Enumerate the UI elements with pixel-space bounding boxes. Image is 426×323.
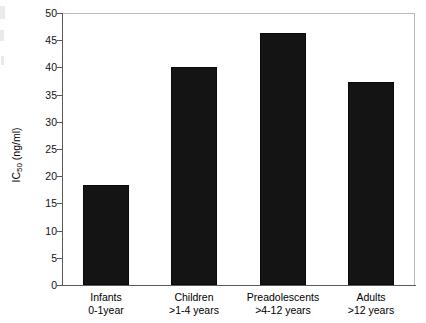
- x-category-label-line1: Infants: [62, 291, 150, 304]
- scan-artifact: [1, 56, 4, 65]
- y-tick-mark: [57, 40, 62, 41]
- x-category-label-line1: Children: [150, 291, 238, 304]
- x-category-label-line1: Adults: [327, 291, 415, 304]
- y-tick-label: 10: [24, 226, 57, 236]
- y-tick-mark: [57, 176, 62, 177]
- y-tick-label-text: 20: [29, 171, 57, 181]
- x-category-label-line2: 0-1year: [62, 304, 150, 317]
- y-tick-mark: [57, 13, 62, 14]
- scan-artifact: [0, 30, 4, 41]
- y-tick-label-text: 0: [29, 280, 57, 290]
- y-tick-label-text: 50: [29, 8, 57, 18]
- y-axis-title-subscript: 50: [15, 163, 24, 172]
- scan-artifact: [0, 6, 5, 19]
- y-axis-title-unit: (ng/ml): [10, 128, 22, 164]
- y-tick-mark: [57, 122, 62, 123]
- x-category-label-line1: Preadolescents: [239, 291, 327, 304]
- y-axis-title: IC50 (ng/ml): [10, 105, 24, 205]
- y-tick-mark: [57, 203, 62, 204]
- y-tick-label-text: 45: [29, 35, 57, 45]
- y-tick-label: 15: [24, 198, 57, 208]
- x-category-label-line2: >4-12 years: [239, 304, 327, 317]
- y-tick-mark: [57, 67, 62, 68]
- y-tick-label-text: 5: [29, 253, 57, 263]
- x-category-label: Infants0-1year: [62, 291, 150, 316]
- y-axis-line: [62, 13, 63, 286]
- x-category-label-line2: >12 years: [327, 304, 415, 317]
- y-tick-label-text: 35: [29, 90, 57, 100]
- y-tick-mark: [57, 231, 62, 232]
- y-tick-label: 50: [24, 8, 57, 18]
- y-tick-label-text: 15: [29, 198, 57, 208]
- y-tick-label: 0: [24, 280, 57, 290]
- y-tick-label: 20: [24, 171, 57, 181]
- bar: [171, 67, 217, 285]
- y-tick-label: 35: [24, 90, 57, 100]
- y-tick-label: 30: [24, 117, 57, 127]
- y-axis-title-base: IC: [10, 172, 22, 183]
- y-tick-label: 45: [24, 35, 57, 45]
- x-category-label: Adults>12 years: [327, 291, 415, 316]
- bar: [83, 185, 129, 285]
- x-category-label: Children>1-4 years: [150, 291, 238, 316]
- y-tick-mark: [57, 285, 62, 286]
- bar: [348, 82, 394, 285]
- y-tick-mark: [57, 149, 62, 150]
- bar: [260, 33, 306, 285]
- y-tick-label-text: 40: [29, 62, 57, 72]
- y-tick-mark: [57, 95, 62, 96]
- bar-chart: IC50 (ng/ml) 50454035302520151050 Infant…: [0, 0, 426, 323]
- y-tick-label-text: 30: [29, 117, 57, 127]
- y-tick-label: 5: [24, 253, 57, 263]
- y-tick-label-text: 10: [29, 226, 57, 236]
- x-category-label-line2: >1-4 years: [150, 304, 238, 317]
- x-category-label: Preadolescents>4-12 years: [239, 291, 327, 316]
- y-tick-mark: [57, 258, 62, 259]
- y-tick-label-text: 25: [29, 144, 57, 154]
- x-axis-line: [62, 285, 416, 286]
- y-tick-label: 40: [24, 62, 57, 72]
- y-tick-label: 25: [24, 144, 57, 154]
